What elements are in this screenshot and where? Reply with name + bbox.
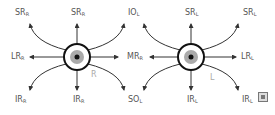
left-eye-label: L bbox=[210, 73, 214, 82]
image-icon[interactable] bbox=[258, 92, 268, 102]
right-eye-label: R bbox=[91, 70, 97, 79]
label-so: SOL bbox=[128, 96, 142, 104]
eye-muscle-diagram: SRR SRR IOL SRL SRL LRR MRR LRL IRR IRR … bbox=[0, 0, 275, 115]
label-lr-l: LRL bbox=[241, 53, 254, 61]
right-eye bbox=[64, 44, 90, 70]
label-ir-r-outer: IRR bbox=[15, 96, 26, 104]
label-io: IOL bbox=[128, 9, 139, 17]
label-sr-r-outer: SRR bbox=[15, 9, 29, 17]
label-sr-r: SRR bbox=[71, 9, 85, 17]
label-ir-r: IRR bbox=[73, 96, 84, 104]
label-ir-l-outer: IRL bbox=[242, 96, 253, 104]
label-mr: MRR bbox=[127, 53, 143, 61]
label-ir-l: IRL bbox=[187, 96, 198, 104]
left-eye bbox=[178, 44, 204, 70]
label-lr-r: LRR bbox=[11, 53, 25, 61]
label-sr-l: SRL bbox=[185, 9, 198, 17]
label-sr-l-outer: SRL bbox=[243, 9, 256, 17]
